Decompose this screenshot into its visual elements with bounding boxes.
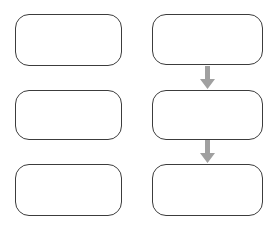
arrow-down-icon — [199, 66, 216, 90]
diagram-canvas — [0, 0, 276, 232]
node-left-2[interactable] — [15, 90, 122, 140]
node-left-1[interactable] — [15, 14, 122, 66]
node-left-3[interactable] — [15, 164, 122, 216]
node-right-1[interactable] — [152, 14, 263, 65]
arrow-down-icon — [199, 140, 216, 164]
node-right-2[interactable] — [152, 90, 263, 140]
node-right-3[interactable] — [152, 164, 263, 216]
